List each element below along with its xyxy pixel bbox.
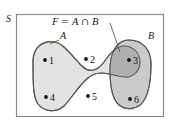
element-label: 6 [134, 94, 139, 105]
element-label: 2 [90, 54, 95, 65]
element-dot-icon [86, 94, 90, 98]
element-dot-icon [128, 97, 132, 101]
element-dot-icon [43, 58, 47, 62]
element-dot-icon [127, 58, 131, 62]
element-label: 5 [92, 91, 97, 102]
venn-diagram-figure: S F = A ∩ B A B 1 2 3 [0, 0, 173, 128]
formula-operand-left: A [71, 16, 79, 27]
set-a-label: A [59, 30, 67, 41]
universe-label: S [6, 13, 11, 24]
element-dot-icon [44, 95, 48, 99]
intersection-operator-icon: ∩ [81, 16, 89, 27]
formula-operand-right: B [92, 16, 99, 27]
element-label: 4 [50, 92, 55, 103]
formula-equals: = [61, 16, 69, 27]
element-point-5: 5 [86, 91, 97, 102]
element-label: 1 [49, 55, 54, 66]
formula-label: F = A ∩ B [51, 16, 99, 27]
element-label: 3 [133, 55, 138, 66]
element-point-2: 2 [84, 54, 95, 65]
set-b-label: B [148, 30, 154, 41]
venn-diagram-canvas: S F = A ∩ B A B 1 2 3 [0, 0, 173, 128]
element-dot-icon [84, 57, 88, 61]
formula-lhs: F [51, 16, 59, 27]
